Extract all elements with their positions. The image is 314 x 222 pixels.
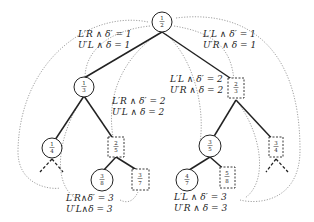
svg-text:8: 8 bbox=[225, 178, 229, 184]
tree-diagram: 1 2 1 3 2 3 1 4 2 5 3 5 3 4 3 bbox=[0, 0, 314, 222]
label-top-left-2: U′L ∧ δ = 1 bbox=[78, 40, 130, 50]
svg-text:3: 3 bbox=[208, 139, 212, 145]
node-lrr: 3 7 bbox=[132, 169, 149, 190]
node-lr: 2 5 bbox=[108, 137, 124, 157]
svg-text:2: 2 bbox=[234, 81, 238, 87]
node-r: 2 3 bbox=[228, 78, 244, 98]
label-mid-left-2: U′L ∧ δ = 2 bbox=[112, 107, 165, 117]
label-bot-right-2: U′R ∧ δ = 3 bbox=[174, 203, 227, 213]
label-bot-left-2: U′L∧δ = 3 bbox=[66, 204, 113, 214]
svg-text:1: 1 bbox=[160, 15, 164, 21]
svg-text:7: 7 bbox=[138, 180, 142, 186]
svg-text:3: 3 bbox=[82, 87, 86, 93]
node-rl: 3 5 bbox=[199, 135, 221, 157]
svg-text:4: 4 bbox=[274, 147, 278, 153]
svg-text:4: 4 bbox=[50, 148, 54, 154]
svg-text:3: 3 bbox=[100, 173, 104, 179]
arc-r-to-bottom bbox=[236, 100, 260, 198]
svg-text:3: 3 bbox=[274, 140, 278, 146]
label-mid-left-1: L′R ∧ δ′ = 2 bbox=[111, 96, 166, 106]
label-top-right-2: U′R ∧ δ = 1 bbox=[203, 40, 256, 50]
svg-text:1: 1 bbox=[50, 141, 54, 147]
svg-text:8: 8 bbox=[100, 180, 104, 186]
arc-bot-left-to-lrr bbox=[120, 192, 138, 202]
label-mid-right-2: U′R ∧ δ = 2 bbox=[170, 85, 223, 95]
node-l: 1 3 bbox=[74, 77, 94, 97]
label-top-right-1: L′L ∧ δ′ = 1 bbox=[202, 29, 256, 39]
label-top-left-1: L′R ∧ δ′ = 1 bbox=[77, 29, 132, 39]
svg-text:7: 7 bbox=[185, 180, 189, 186]
arc-l-to-bottom bbox=[60, 96, 84, 198]
label-mid-right-1: L′L ∧ δ′ = 2 bbox=[169, 74, 223, 84]
svg-text:5: 5 bbox=[225, 170, 229, 176]
node-rr: 3 4 bbox=[269, 137, 283, 157]
svg-text:1: 1 bbox=[82, 80, 86, 86]
svg-text:4: 4 bbox=[185, 173, 189, 179]
svg-text:3: 3 bbox=[138, 172, 142, 178]
svg-text:2: 2 bbox=[160, 22, 164, 28]
label-bot-left-1: L′R∧δ′ = 3 bbox=[65, 193, 114, 203]
node-ll: 1 4 bbox=[42, 138, 62, 158]
dashed-edges bbox=[40, 159, 288, 172]
svg-text:5: 5 bbox=[208, 146, 212, 152]
svg-text:3: 3 bbox=[234, 88, 238, 94]
node-lrl: 3 8 bbox=[91, 169, 113, 191]
node-rll: 4 7 bbox=[176, 169, 198, 191]
svg-text:2: 2 bbox=[114, 140, 118, 146]
node-rlr: 5 8 bbox=[220, 167, 235, 188]
label-bot-right-1: L′L ∧ δ′ = 3 bbox=[173, 192, 227, 202]
arc-root-to-lr bbox=[111, 34, 158, 142]
svg-text:5: 5 bbox=[114, 147, 118, 153]
node-root: 1 2 bbox=[152, 12, 172, 32]
